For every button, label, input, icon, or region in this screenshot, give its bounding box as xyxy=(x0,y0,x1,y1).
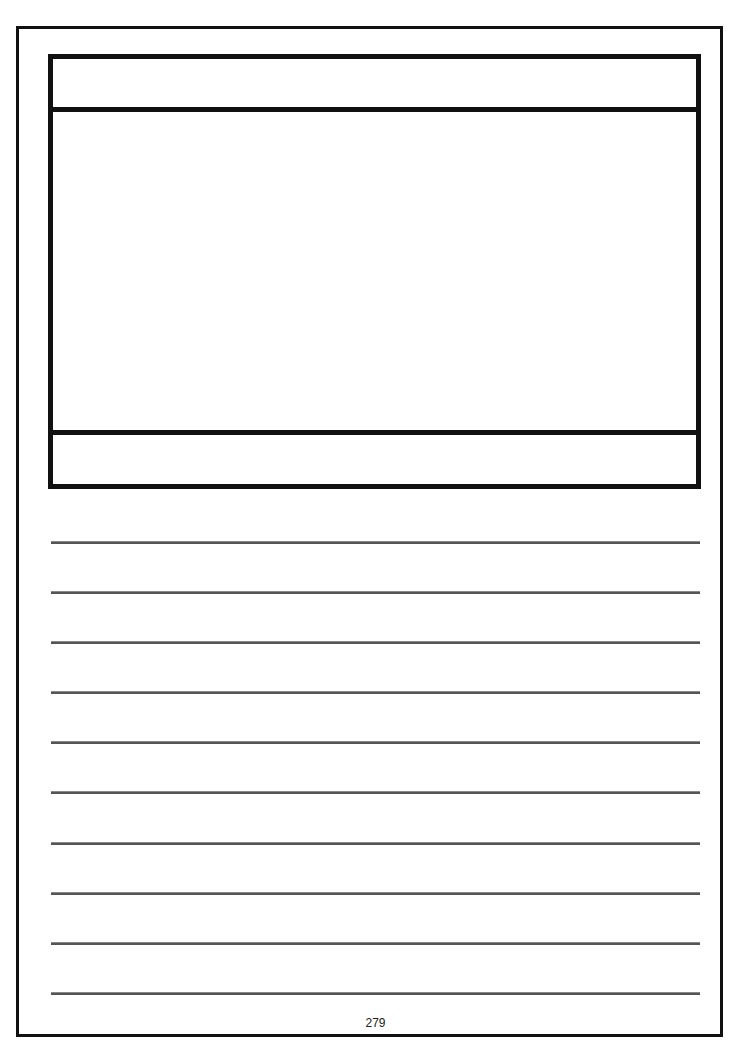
title-band[interactable] xyxy=(53,59,696,112)
writing-line[interactable] xyxy=(51,741,700,744)
writing-line[interactable] xyxy=(51,641,700,644)
writing-line[interactable] xyxy=(51,691,700,694)
writing-line[interactable] xyxy=(51,842,700,845)
drawing-area[interactable] xyxy=(53,112,696,430)
writing-line[interactable] xyxy=(51,591,700,594)
writing-line[interactable] xyxy=(51,942,700,945)
writing-line[interactable] xyxy=(51,892,700,895)
writing-line[interactable] xyxy=(51,541,700,544)
writing-line[interactable] xyxy=(51,791,700,794)
picture-box xyxy=(48,54,701,489)
page-number: 279 xyxy=(0,1016,751,1030)
writing-line[interactable] xyxy=(51,992,700,995)
caption-band[interactable] xyxy=(53,430,696,484)
